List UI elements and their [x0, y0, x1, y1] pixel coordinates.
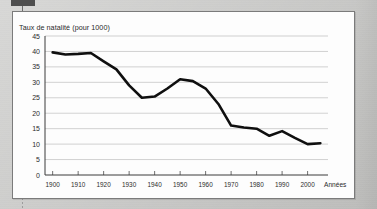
x-tick-label: 1900 [46, 181, 61, 188]
birth-rate-data-line [53, 52, 321, 144]
x-tick-label: 1960 [199, 181, 214, 188]
chart-figure-frame: Taux de natalité (pour 1000) 05101520253… [12, 11, 355, 199]
x-axis-tick-labels: 1900191019201930194019501960197019801990… [46, 181, 316, 188]
x-tick-label: 1970 [224, 181, 239, 188]
x-tick-label: 1990 [275, 181, 290, 188]
x-tick-label: 1940 [148, 181, 163, 188]
y-tick-label: 0 [36, 172, 40, 179]
top-ui-handle-bar[interactable] [11, 0, 35, 6]
y-tick-label: 10 [32, 141, 40, 148]
page-background: Taux de natalité (pour 1000) 05101520253… [0, 0, 377, 209]
y-tick-label: 35 [32, 63, 40, 70]
x-axis-tick-marks [53, 171, 308, 175]
y-axis-tick-labels: 051015202530354045 [32, 33, 40, 179]
y-tick-label: 25 [32, 94, 40, 101]
y-tick-label: 5 [36, 156, 40, 163]
x-tick-label: 2000 [300, 181, 315, 188]
x-tick-label: 1930 [122, 181, 137, 188]
x-tick-label: 1950 [173, 181, 188, 188]
y-tick-label: 20 [32, 110, 40, 117]
y-tick-label: 45 [32, 33, 40, 40]
y-tick-label: 40 [32, 48, 40, 55]
x-tick-label: 1920 [97, 181, 112, 188]
y-tick-label: 15 [32, 125, 40, 132]
x-axis-title: Années [324, 181, 346, 188]
x-tick-label: 1980 [250, 181, 265, 188]
y-tick-label: 30 [32, 79, 40, 86]
plot-area: 051015202530354045 190019101920193019401… [13, 12, 356, 200]
right-margin-shade [355, 0, 377, 209]
line-chart-svg: 051015202530354045 190019101920193019401… [13, 12, 356, 200]
x-tick-label: 1910 [71, 181, 86, 188]
